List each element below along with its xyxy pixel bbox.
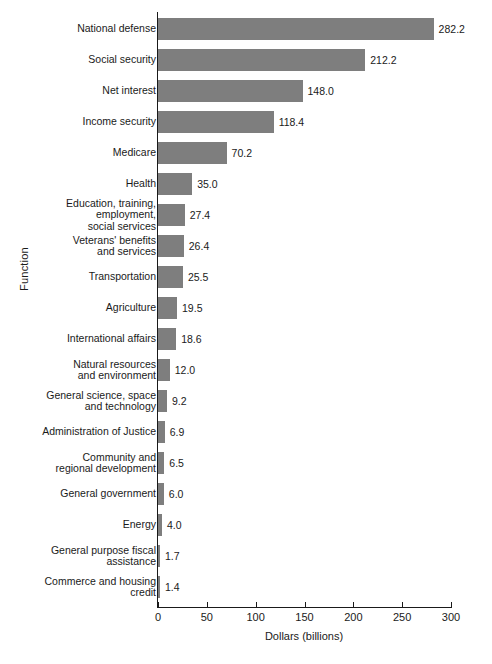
- x-axis-tick-label: 50: [187, 611, 227, 623]
- category-label: Education, training, employment, social …: [6, 198, 156, 233]
- bar-value-label: 6.5: [169, 457, 184, 469]
- category-label: General science, space and technology: [6, 390, 156, 413]
- x-axis-tick-label: 300: [431, 611, 471, 623]
- category-label: Net interest: [6, 85, 156, 97]
- bar: [158, 142, 227, 164]
- category-label: Medicare: [6, 147, 156, 159]
- bar: [158, 266, 183, 288]
- category-label: Social security: [6, 54, 156, 66]
- plot-area: National defense282.2Social security212.…: [0, 0, 492, 610]
- category-label: Natural resources and environment: [6, 359, 156, 382]
- category-label: Health: [6, 178, 156, 190]
- category-label: Community and regional development: [6, 452, 156, 475]
- bar-value-label: 12.0: [175, 364, 195, 376]
- chart-bar-row: Education, training, employment, social …: [0, 204, 492, 226]
- x-axis-tick: [353, 602, 354, 608]
- chart-bar-row: International affairs18.6: [0, 328, 492, 350]
- chart-bar-row: Commerce and housing credit1.4: [0, 576, 492, 598]
- x-axis-tick: [207, 602, 208, 608]
- bar-value-label: 35.0: [197, 178, 217, 190]
- bar: [158, 49, 365, 71]
- category-label: Agriculture: [6, 302, 156, 314]
- bar: [158, 576, 160, 598]
- chart-bar-row: Social security212.2: [0, 49, 492, 71]
- chart-bar-row: General government6.0: [0, 483, 492, 505]
- bar-value-label: 148.0: [308, 85, 334, 97]
- bar: [158, 390, 167, 412]
- chart-bar-row: Community and regional development6.5: [0, 452, 492, 474]
- x-axis-tick: [158, 602, 159, 608]
- category-label: Income security: [6, 116, 156, 128]
- bar: [158, 545, 160, 567]
- x-axis-tick: [256, 602, 257, 608]
- bar: [158, 328, 176, 350]
- x-axis-tick: [451, 602, 452, 608]
- category-label: General purpose fiscal assistance: [6, 545, 156, 568]
- bar: [158, 18, 434, 40]
- bar-value-label: 1.7: [165, 550, 180, 562]
- chart-bar-row: Health35.0: [0, 173, 492, 195]
- category-label: National defense: [6, 23, 156, 35]
- bar: [158, 359, 170, 381]
- x-axis-tick-label: 250: [382, 611, 422, 623]
- category-label: Transportation: [6, 271, 156, 283]
- bar-value-label: 6.9: [170, 426, 185, 438]
- category-label: Administration of Justice: [6, 426, 156, 438]
- chart-bar-row: Energy4.0: [0, 514, 492, 536]
- category-label: Veterans' benefits and services: [6, 235, 156, 258]
- y-axis-line: [157, 12, 158, 608]
- bar-value-label: 118.4: [279, 116, 305, 128]
- bar-value-label: 70.2: [232, 147, 252, 159]
- bar: [158, 421, 165, 443]
- bar: [158, 173, 192, 195]
- bar-value-label: 282.2: [439, 23, 465, 35]
- chart-bar-row: Veterans' benefits and services26.4: [0, 235, 492, 257]
- bar-value-label: 26.4: [189, 240, 209, 252]
- x-axis-tick: [402, 602, 403, 608]
- bar: [158, 514, 162, 536]
- bar: [158, 483, 164, 505]
- x-axis-tick-label: 100: [236, 611, 276, 623]
- category-label: Energy: [6, 519, 156, 531]
- chart-bar-row: Medicare70.2: [0, 142, 492, 164]
- category-label: Commerce and housing credit: [6, 576, 156, 599]
- bar-value-label: 18.6: [181, 333, 201, 345]
- bar-value-label: 6.0: [169, 488, 184, 500]
- bar-chart: Function National defense282.2Social sec…: [0, 0, 492, 664]
- x-axis-tick: [305, 602, 306, 608]
- chart-bar-row: General science, space and technology9.2: [0, 390, 492, 412]
- chart-bar-row: Natural resources and environment12.0: [0, 359, 492, 381]
- category-label: International affairs: [6, 333, 156, 345]
- bar: [158, 297, 177, 319]
- x-axis-tick-label: 200: [333, 611, 373, 623]
- x-axis-tick-label: 150: [285, 611, 325, 623]
- bar: [158, 111, 274, 133]
- chart-bar-row: Net interest148.0: [0, 80, 492, 102]
- bar-value-label: 27.4: [190, 209, 210, 221]
- bar: [158, 204, 185, 226]
- chart-bar-row: Income security118.4: [0, 111, 492, 133]
- bar-value-label: 4.0: [167, 519, 182, 531]
- chart-bar-row: National defense282.2: [0, 18, 492, 40]
- x-axis-tick-label: 0: [138, 611, 178, 623]
- chart-bar-row: Administration of Justice6.9: [0, 421, 492, 443]
- category-label: General government: [6, 488, 156, 500]
- chart-bar-row: Transportation25.5: [0, 266, 492, 288]
- bar-value-label: 9.2: [172, 395, 187, 407]
- bar-value-label: 19.5: [182, 302, 202, 314]
- chart-bar-row: Agriculture19.5: [0, 297, 492, 319]
- chart-bar-row: General purpose fiscal assistance1.7: [0, 545, 492, 567]
- bar-value-label: 212.2: [370, 54, 396, 66]
- x-axis-title: Dollars (billions): [157, 630, 451, 642]
- bar: [158, 452, 164, 474]
- bar: [158, 235, 184, 257]
- bar-value-label: 1.4: [165, 581, 180, 593]
- bar: [158, 80, 303, 102]
- bar-value-label: 25.5: [188, 271, 208, 283]
